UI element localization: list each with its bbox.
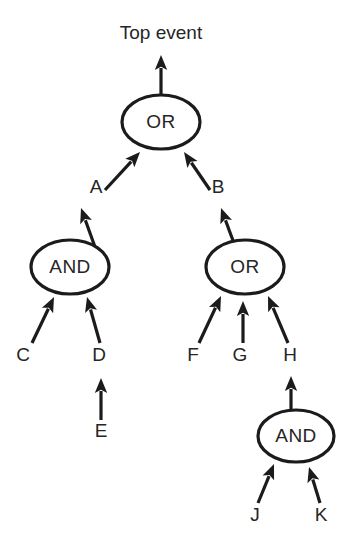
edge_b_top-arrowhead-icon [184,152,198,168]
edge-edge_k_and [307,467,320,503]
event-label-e: E [95,420,108,441]
edge-edge_g_or [237,301,249,343]
gate-and-g_and_a[interactable]: AND [31,240,109,294]
gate-label: AND [49,256,90,277]
event-label-h: H [283,344,297,365]
edge-edge_f_or [199,296,221,343]
edge-edge_and_h [285,376,297,414]
event-label-g: G [233,344,248,365]
gate-or-g_top[interactable]: OR [122,95,200,149]
fault-tree-diagram: ORANDORAND Top eventABCDEFGHJK [0,0,345,544]
event-label-j: J [250,504,260,525]
gate-and-g_and_h[interactable]: AND [258,410,334,462]
gate-label: AND [275,425,316,446]
event-label-b: B [212,176,225,197]
edge-edge_e_d [95,378,107,420]
edge_h_or-shaft [273,308,288,343]
event-label-k: K [315,504,328,525]
event-label-f: F [187,344,199,365]
event-label-c: C [16,344,30,365]
top-event-label: Top event [120,22,203,43]
edge-edge_top_out [155,55,167,95]
edge-edge_a_top [105,152,140,190]
edge-edge_d_and [85,297,100,343]
edge_j_and-shaft [258,476,269,503]
edge-edge_c_and [32,297,54,343]
edge_c_and-shaft [32,309,48,343]
gate-label: OR [230,256,259,277]
gate-or-g_or_b[interactable]: OR [206,240,284,294]
event-label-d: D [92,344,106,365]
fault-tree-canvas: ORANDORAND Top eventABCDEFGHJK [0,0,345,544]
edge_a_top-shaft [105,162,131,190]
edge_top_out-arrowhead-icon [155,55,167,70]
edge_and_h-arrowhead-icon [285,376,297,391]
gates-layer: ORANDORAND [31,95,334,462]
edge-edge_h_or [268,296,288,343]
edge_e_d-arrowhead-icon [95,378,107,393]
edge-edge_j_and [258,464,274,503]
edge_d_and-shaft [91,310,100,343]
gate-label: OR [146,111,175,132]
edge_f_or-shaft [199,308,215,343]
edge_k_and-shaft [313,479,320,503]
edge-edge_b_top [184,152,210,190]
event-label-a: A [90,176,103,197]
edge_b_top-shaft [191,163,210,190]
edge_g_or-arrowhead-icon [237,301,249,316]
